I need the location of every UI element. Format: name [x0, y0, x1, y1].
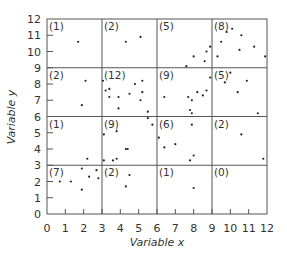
y-axis-title: Variable y	[5, 89, 18, 144]
data-point	[128, 93, 130, 95]
data-point	[196, 91, 198, 93]
data-point	[246, 80, 248, 82]
y-tick-label: 11	[27, 29, 41, 42]
data-point	[205, 50, 207, 52]
x-tick-label: 10	[223, 222, 237, 235]
quadrat-count-label: (1)	[49, 118, 64, 130]
data-point	[86, 158, 88, 160]
data-point	[117, 107, 119, 109]
quadrat-count-label: (9)	[104, 118, 119, 130]
data-point	[139, 99, 141, 101]
data-point	[103, 133, 105, 135]
x-tick-label: 4	[117, 222, 124, 235]
data-point	[163, 96, 165, 98]
data-point	[191, 112, 193, 114]
data-point	[204, 60, 206, 62]
x-tick-label: 6	[154, 222, 161, 235]
quadrat-scatter-chart: 01234567891011120123456789101112 (1)(2)(…	[0, 0, 287, 258]
quadrat-count-label: (6)	[159, 118, 174, 130]
quadrat-count-label: (8)	[214, 20, 229, 32]
data-point	[128, 174, 130, 176]
y-tick-label: 5	[34, 127, 41, 140]
data-point	[231, 28, 233, 30]
quadrat-count-label: (7)	[49, 166, 64, 178]
data-point	[112, 159, 114, 161]
data-point	[108, 88, 110, 90]
quadrat-count-label: (2)	[104, 166, 119, 178]
x-tick-label: 11	[242, 222, 256, 235]
y-tick-label: 9	[34, 62, 41, 75]
data-point	[226, 31, 228, 33]
quadrat-count-label: (5)	[214, 69, 229, 81]
data-point	[220, 41, 222, 43]
data-point	[134, 83, 136, 85]
data-point	[141, 91, 143, 93]
data-point	[147, 111, 149, 113]
y-tick-label: 6	[34, 111, 41, 124]
data-point	[108, 96, 110, 98]
x-tick-label: 12	[260, 222, 274, 235]
data-point	[158, 137, 160, 139]
data-point	[81, 189, 83, 191]
x-tick-label: 3	[99, 222, 106, 235]
data-point	[147, 117, 149, 119]
data-point	[163, 146, 165, 148]
y-tick-label: 1	[34, 192, 41, 205]
y-tick-label: 3	[34, 159, 41, 172]
data-point	[209, 76, 211, 78]
data-point	[189, 159, 191, 161]
data-point	[191, 124, 193, 126]
data-point	[193, 154, 195, 156]
data-point	[81, 167, 83, 169]
x-tick-label: 5	[135, 222, 142, 235]
quadrat-count-label: (1)	[159, 166, 174, 178]
y-tick-label: 4	[34, 143, 41, 156]
quadrat-count-label: (1)	[49, 20, 64, 32]
quadrat-count-label: (2)	[214, 118, 229, 130]
data-point	[151, 124, 153, 126]
data-point	[257, 112, 259, 114]
quadrat-count-label: (9)	[159, 69, 174, 81]
data-point	[174, 143, 176, 145]
data-point	[209, 46, 211, 48]
data-point	[189, 109, 191, 111]
x-tick-label: 7	[172, 222, 179, 235]
data-point	[238, 49, 240, 51]
data-point	[127, 148, 129, 150]
quadrat-count-label: (5)	[159, 20, 174, 32]
data-point	[240, 34, 242, 36]
y-tick-label: 2	[34, 176, 41, 189]
y-tick-label: 12	[27, 13, 41, 26]
y-tick-label: 10	[27, 46, 41, 59]
data-point	[205, 89, 207, 91]
axis-tick-labels: 01234567891011120123456789101112	[27, 13, 274, 235]
data-point	[102, 80, 104, 82]
x-tick-label: 8	[190, 222, 197, 235]
data-point	[224, 81, 226, 83]
x-tick-label: 2	[80, 222, 87, 235]
quadrat-grid	[47, 19, 267, 214]
data-point	[187, 96, 189, 98]
quadrat-count-label: (2)	[104, 20, 119, 32]
data-point	[125, 185, 127, 187]
data-point	[253, 46, 255, 48]
y-tick-label: 0	[34, 208, 41, 221]
data-point	[117, 96, 119, 98]
quadrat-count-label: (12)	[104, 69, 126, 81]
data-point	[81, 104, 83, 106]
data-point	[193, 187, 195, 189]
data-point	[193, 55, 195, 57]
x-tick-label: 9	[209, 222, 216, 235]
data-point	[84, 80, 86, 82]
data-point	[264, 55, 266, 57]
data-point	[229, 72, 231, 74]
x-axis-title: Variable x	[130, 236, 185, 249]
data-point	[125, 41, 127, 43]
data-point	[202, 94, 204, 96]
data-point	[240, 133, 242, 135]
data-point	[88, 176, 90, 178]
data-point	[77, 41, 79, 43]
data-point	[105, 89, 107, 91]
quadrat-count-label: (2)	[49, 69, 64, 81]
x-tick-label: 1	[62, 222, 69, 235]
